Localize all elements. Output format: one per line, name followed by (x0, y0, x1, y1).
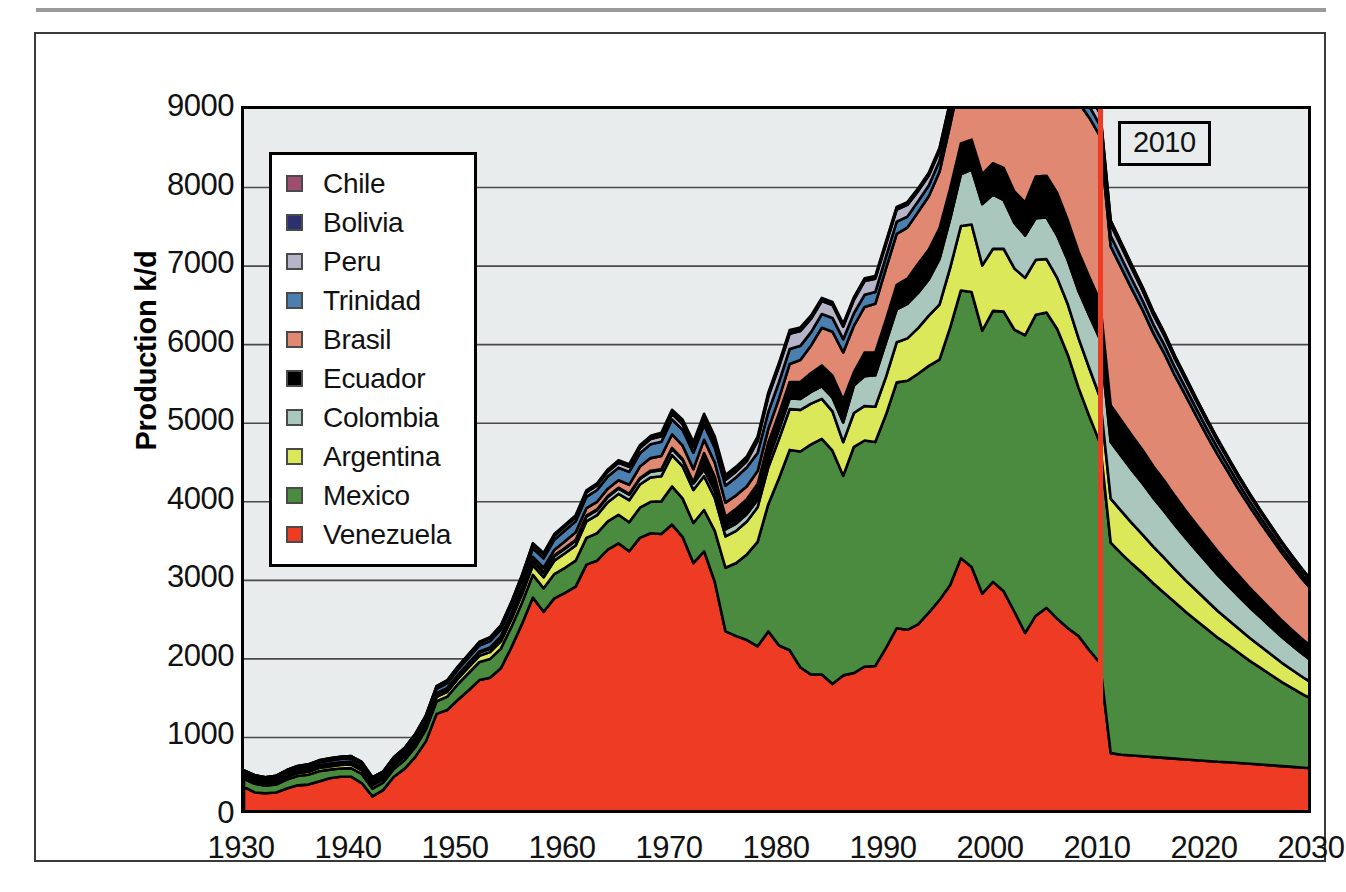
legend-item-label: Trinidad (323, 285, 421, 317)
y-tick-label: 1000 (84, 716, 234, 752)
x-tick-label: 1980 (743, 830, 810, 866)
y-tick-label: 0 (84, 795, 234, 831)
x-tick-label: 2000 (957, 830, 1024, 866)
x-tick-label: 1930 (208, 830, 275, 866)
y-tick-label: 6000 (84, 324, 234, 360)
x-axis-tick-labels: 1930194019501960197019801990200020102020… (241, 830, 1311, 876)
y-tick-label: 2000 (84, 638, 234, 674)
legend-swatch-icon (286, 487, 303, 504)
y-tick-label: 9000 (84, 88, 234, 124)
x-tick-label: 2010 (1064, 830, 1131, 866)
year-marker-label: 2010 (1118, 121, 1211, 166)
x-tick-label: 1950 (422, 830, 489, 866)
legend-item-label: Brasil (323, 324, 391, 356)
x-tick-label: 1970 (636, 830, 703, 866)
chart-page: Production k/d 0100020003000400050006000… (0, 0, 1346, 892)
legend-swatch-icon (286, 448, 303, 465)
legend-item-colombia[interactable]: Colombia (286, 398, 464, 437)
chart-legend: ChileBoliviaPeruTrinidadBrasilEcuadorCol… (269, 152, 477, 567)
y-tick-label: 3000 (84, 559, 234, 595)
legend-swatch-icon (286, 214, 303, 231)
legend-item-ecuador[interactable]: Ecuador (286, 359, 464, 398)
legend-item-chile[interactable]: Chile (286, 164, 464, 203)
legend-swatch-icon (286, 292, 303, 309)
legend-item-label: Bolivia (323, 207, 403, 239)
top-divider-rule (36, 8, 1326, 12)
legend-item-label: Colombia (323, 402, 439, 434)
legend-item-label: Argentina (323, 441, 440, 473)
legend-swatch-icon (286, 175, 303, 192)
legend-item-argentina[interactable]: Argentina (286, 437, 464, 476)
legend-item-venezuela[interactable]: Venezuela (286, 515, 464, 554)
y-axis-tick-labels: 0100020003000400050006000700080009000 (76, 106, 234, 813)
legend-item-label: Peru (323, 246, 381, 278)
x-tick-label: 1990 (850, 830, 917, 866)
year-marker-line (1098, 109, 1103, 810)
figure-frame: Production k/d 0100020003000400050006000… (34, 32, 1326, 862)
legend-swatch-icon (286, 526, 303, 543)
legend-item-peru[interactable]: Peru (286, 242, 464, 281)
legend-item-bolivia[interactable]: Bolivia (286, 203, 464, 242)
legend-swatch-icon (286, 253, 303, 270)
y-tick-label: 7000 (84, 245, 234, 281)
legend-item-mexico[interactable]: Mexico (286, 476, 464, 515)
legend-item-brasil[interactable]: Brasil (286, 320, 464, 359)
y-tick-label: 5000 (84, 402, 234, 438)
legend-item-label: Mexico (323, 480, 410, 512)
x-tick-label: 1940 (315, 830, 382, 866)
legend-swatch-icon (286, 370, 303, 387)
y-tick-label: 4000 (84, 481, 234, 517)
legend-swatch-icon (286, 409, 303, 426)
legend-item-label: Chile (323, 168, 385, 200)
legend-swatch-icon (286, 331, 303, 348)
x-tick-label: 2030 (1278, 830, 1345, 866)
x-tick-label: 1960 (529, 830, 596, 866)
legend-item-trinidad[interactable]: Trinidad (286, 281, 464, 320)
legend-item-label: Venezuela (323, 519, 451, 551)
x-tick-label: 2020 (1171, 830, 1238, 866)
legend-item-label: Ecuador (323, 363, 425, 395)
y-tick-label: 8000 (84, 167, 234, 203)
